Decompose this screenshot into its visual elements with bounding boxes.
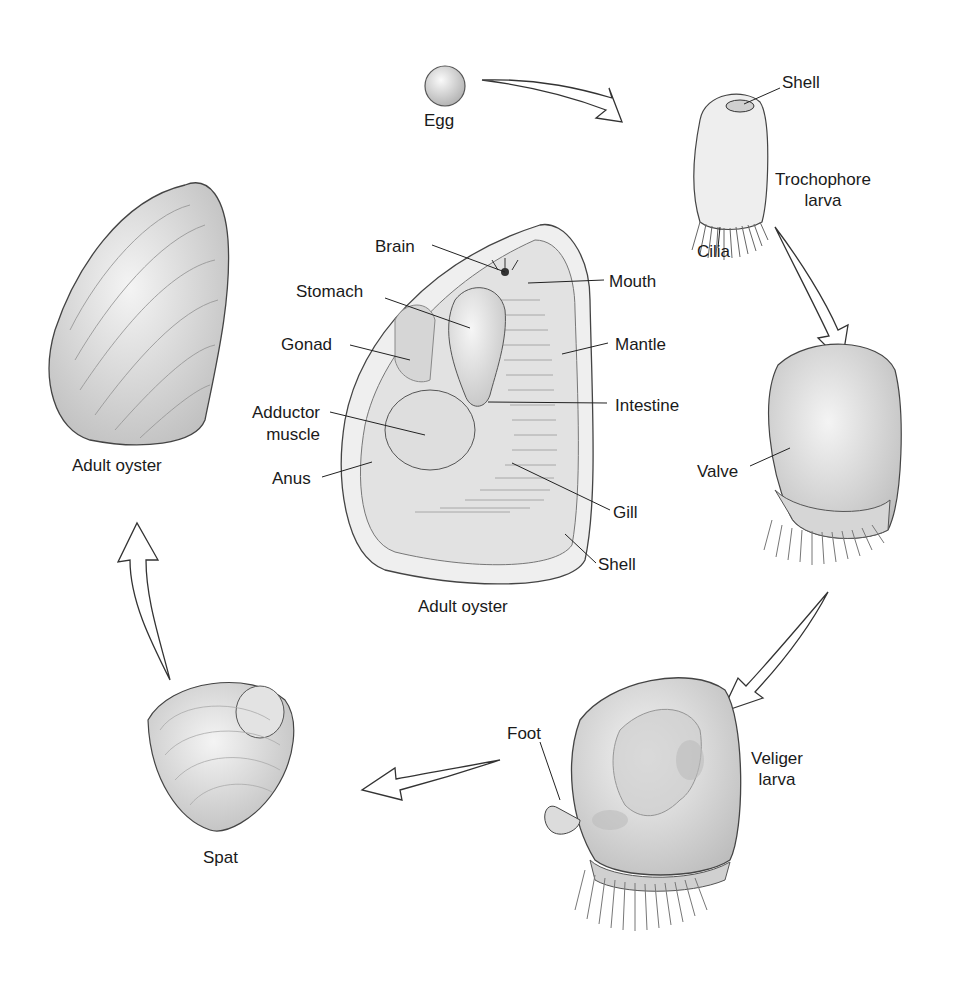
- label-mouth: Mouth: [609, 272, 656, 291]
- label-anus: Anus: [272, 469, 311, 488]
- arrow-valve-to-veliger: [722, 592, 828, 712]
- label-gill: Gill: [613, 503, 638, 522]
- adult-oyster-exterior-illustration: [49, 183, 228, 445]
- label-veliger-larva: larva: [742, 770, 812, 789]
- label-adductor: Adductor: [230, 403, 320, 422]
- label-trochophore: Trochophore: [763, 170, 883, 189]
- label-stomach: Stomach: [296, 282, 363, 301]
- label-intestine: Intestine: [615, 396, 679, 415]
- label-adult-oyster-left: Adult oyster: [72, 456, 162, 475]
- veliger-illustration: [540, 678, 741, 931]
- label-veliger: Veliger: [742, 749, 812, 768]
- spat-illustration: [148, 683, 294, 831]
- label-shell-trochophore: Shell: [782, 73, 820, 92]
- adult-oyster-anatomy-illustration: [341, 225, 593, 584]
- label-valve: Valve: [697, 462, 738, 481]
- label-egg: Egg: [424, 111, 454, 130]
- label-trochophore-larva: larva: [763, 191, 883, 210]
- oyster-life-cycle-diagram: [0, 0, 979, 983]
- label-foot: Foot: [507, 724, 541, 743]
- arrow-trochophore-to-valve: [775, 227, 848, 362]
- label-spat: Spat: [203, 848, 238, 867]
- label-adductor-muscle: muscle: [230, 425, 320, 444]
- egg-illustration: [425, 66, 465, 106]
- label-adult-oyster-center: Adult oyster: [418, 597, 508, 616]
- valve-stage-illustration: [750, 344, 901, 565]
- label-gonad: Gonad: [281, 335, 332, 354]
- label-mantle: Mantle: [615, 335, 666, 354]
- arrow-spat-to-adult: [118, 523, 170, 680]
- arrow-veliger-to-spat: [362, 760, 500, 800]
- label-brain: Brain: [375, 237, 415, 256]
- arrow-egg-to-trochophore: [482, 80, 622, 122]
- label-cilia: Cilia: [697, 242, 730, 261]
- label-shell-anatomy: Shell: [598, 555, 636, 574]
